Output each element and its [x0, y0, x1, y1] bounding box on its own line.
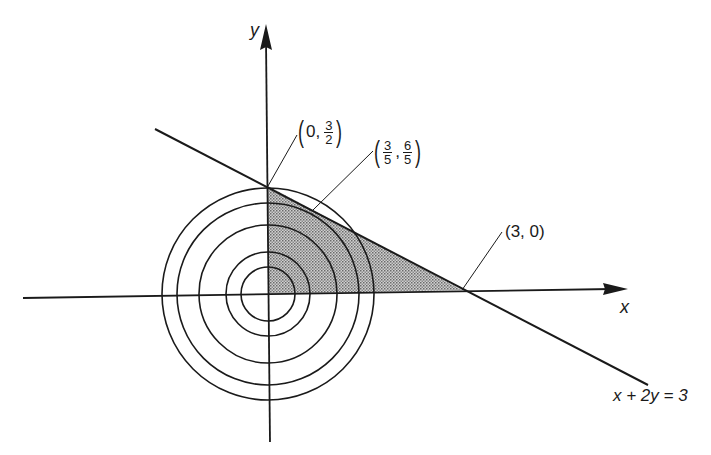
point-label-p2: ( 3 5 , 6 5 ) [372, 137, 423, 167]
point-label-p3: (3, 0) [505, 222, 545, 242]
close-paren: ) [415, 137, 421, 167]
constraint-line [155, 129, 648, 385]
fraction-3-5: 3 5 [383, 139, 392, 166]
point-label-p1: ( 0, 3 2 ) [296, 117, 344, 147]
open-paren: ( [298, 117, 304, 147]
y-axis-label: y [250, 20, 259, 41]
fraction-3-2: 3 2 [324, 119, 333, 146]
leader-line-p1 [268, 135, 297, 186]
point-label-p1-prefix: 0, [306, 122, 320, 142]
close-paren: ) [336, 117, 342, 147]
diagram-canvas [0, 0, 711, 455]
x-axis-label: x [620, 297, 629, 318]
leader-line-p3 [462, 232, 502, 290]
x-axis-arrow-icon [603, 283, 628, 295]
y-axis-arrow-icon [260, 24, 272, 50]
fraction-6-5: 6 5 [403, 139, 412, 166]
leader-line-p2 [313, 151, 373, 210]
open-paren: ( [374, 137, 380, 167]
comma: , [395, 142, 400, 162]
equation-label: x + 2y = 3 [613, 386, 688, 406]
